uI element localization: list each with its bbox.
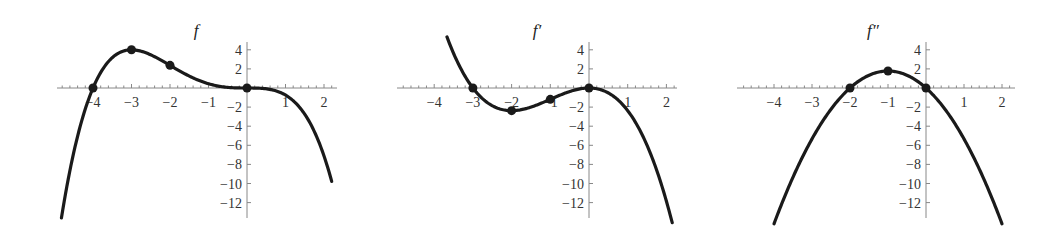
y-tick-label: −6 [569,138,584,153]
x-tick-label: −4 [427,95,442,110]
y-tick-label: −12 [562,196,584,211]
x-tick-label: −2 [163,95,178,110]
function-curve [774,71,1002,224]
f-plot: f−4−3−2−11242−2−4−6−8−10−12 [57,21,337,218]
y-tick-label: −8 [906,157,921,172]
f-double-prime-plot: f″−4−3−2−11242−2−4−6−8−10−12 [737,21,1015,224]
y-tick-label: −12 [220,196,242,211]
y-tick-label: −2 [227,100,242,115]
y-tick-label: −8 [569,157,584,172]
marked-point [89,84,98,93]
y-tick-label: −10 [562,177,584,192]
marked-point [846,84,855,93]
chart-title: f [194,21,201,40]
y-tick-label: 2 [577,62,584,77]
marked-point [468,84,477,93]
y-tick-label: 2 [235,62,242,77]
y-tick-label: −6 [227,138,242,153]
x-tick-label: 2 [999,95,1006,110]
marked-point [922,84,931,93]
y-tick-label: −4 [227,119,242,134]
f-prime-plot: f′−4−3−2−11242−2−4−6−8−10−12 [397,21,677,223]
x-tick-label: −4 [767,95,782,110]
x-tick-label: −3 [124,95,139,110]
marked-point [507,106,516,115]
derivative-plots: f−4−3−2−11242−2−4−6−8−10−12f′−4−3−2−1124… [0,0,1055,235]
x-tick-label: −3 [805,95,820,110]
x-tick-label: −2 [843,95,858,110]
chart-title: f″ [867,21,880,40]
chart-title: f′ [533,21,542,40]
y-tick-label: −8 [227,157,242,172]
y-tick-label: −4 [569,119,584,134]
marked-point [884,67,893,76]
x-tick-label: −1 [881,95,896,110]
y-tick-label: −2 [906,100,921,115]
marked-point [585,84,594,93]
x-tick-label: 1 [961,95,968,110]
y-tick-label: 4 [914,43,921,58]
marked-point [166,61,175,70]
x-tick-label: 2 [663,95,670,110]
y-tick-label: −4 [906,119,921,134]
y-tick-label: 4 [235,43,242,58]
x-tick-label: 2 [321,95,328,110]
y-tick-label: −10 [220,177,242,192]
marked-point [127,45,136,54]
marked-point [243,84,252,93]
x-tick-label: −1 [201,95,216,110]
y-tick-label: −2 [569,100,584,115]
y-tick-label: −12 [899,196,921,211]
y-tick-label: 2 [914,62,921,77]
x-tick-label: −3 [465,95,480,110]
function-curve [447,37,672,223]
function-curve [61,50,331,218]
y-tick-label: 4 [577,43,584,58]
marked-point [546,95,555,104]
y-tick-label: −6 [906,138,921,153]
y-tick-label: −10 [899,177,921,192]
